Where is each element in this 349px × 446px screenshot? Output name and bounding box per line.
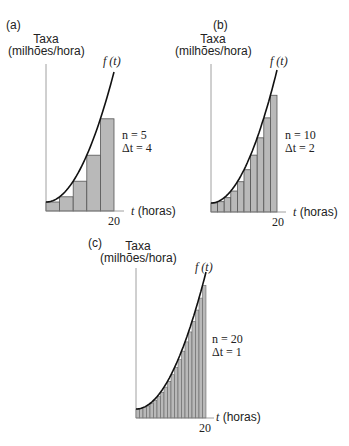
riemann-bar xyxy=(73,181,87,211)
riemann-bar xyxy=(196,310,200,418)
riemann-bar xyxy=(231,191,238,212)
riemann-bar xyxy=(203,285,207,418)
riemann-bar xyxy=(154,400,158,418)
riemann-bar xyxy=(100,119,114,211)
riemann-sum-plots xyxy=(0,0,349,446)
riemann-bar xyxy=(171,375,175,418)
riemann-bar xyxy=(87,155,101,211)
riemann-bar xyxy=(185,342,189,418)
riemann-bar xyxy=(143,408,147,418)
riemann-bar xyxy=(270,95,277,212)
figure-caption-cutoff xyxy=(0,438,349,446)
riemann-bar xyxy=(264,118,271,212)
riemann-bar xyxy=(168,381,172,418)
riemann-bar xyxy=(251,155,258,212)
riemann-bar xyxy=(150,404,154,418)
riemann-bar xyxy=(192,321,196,418)
riemann-bar xyxy=(136,409,140,418)
riemann-bar xyxy=(157,397,161,418)
riemann-bar xyxy=(147,406,151,418)
riemann-bar xyxy=(46,202,60,211)
riemann-bar xyxy=(218,202,225,212)
riemann-bar xyxy=(237,182,244,212)
riemann-bar xyxy=(164,387,168,418)
riemann-bar xyxy=(175,368,179,418)
riemann-bar xyxy=(189,332,193,418)
riemann-bar xyxy=(257,138,264,212)
riemann-bar xyxy=(60,197,74,211)
riemann-bar xyxy=(182,351,186,418)
riemann-bar xyxy=(161,392,165,418)
riemann-bar xyxy=(211,203,218,212)
riemann-bar xyxy=(178,360,182,418)
riemann-bar xyxy=(224,198,231,212)
riemann-bar xyxy=(244,170,251,212)
riemann-bar xyxy=(140,409,144,418)
riemann-bar xyxy=(199,298,203,418)
